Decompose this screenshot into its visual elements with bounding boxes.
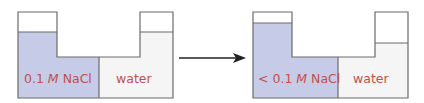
water-before xyxy=(99,32,173,98)
nacl-solution-after xyxy=(253,23,338,98)
nacl-label-before: 0.1 M NaCl xyxy=(24,71,92,86)
arrow-icon xyxy=(179,53,246,63)
water-label-after: water xyxy=(353,71,389,86)
u-tube-after: < 0.1 M NaCl water xyxy=(253,12,408,98)
nacl-solution-before xyxy=(18,32,99,98)
u-tube-before: 0.1 M NaCl water xyxy=(18,12,173,98)
nacl-label-after: < 0.1 M NaCl xyxy=(258,71,340,86)
osmosis-diagram: 0.1 M NaCl water < 0.1 M NaCl water xyxy=(0,0,424,103)
water-label-before: water xyxy=(116,71,152,86)
